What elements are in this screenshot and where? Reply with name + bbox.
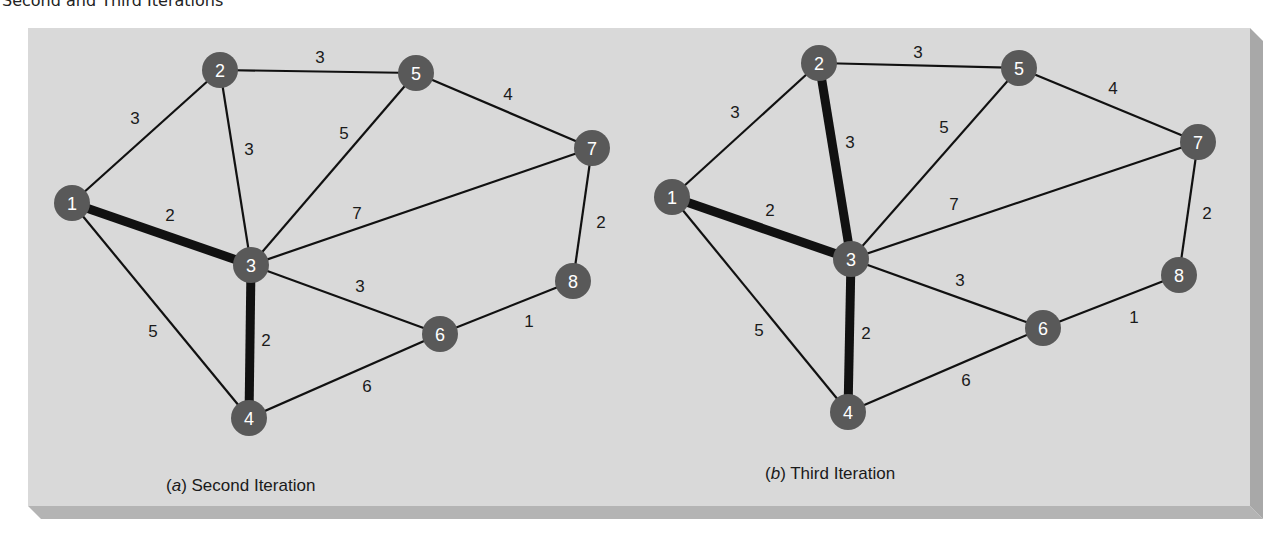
edge-weight-4-6: 6 [362,377,371,396]
node-6: 6 [1025,310,1061,346]
node-1: 1 [654,179,690,215]
edge-weight-3-6: 3 [355,277,364,296]
node-label: 6 [1038,319,1048,339]
node-label: 8 [1174,266,1184,286]
edge-weight-4-6: 6 [961,371,970,390]
node-label: 7 [1193,133,1203,153]
edge-weight-1-2: 3 [130,109,139,128]
node-8: 8 [1161,257,1197,293]
node-1: 1 [54,185,90,221]
node-label: 5 [411,64,421,84]
node-7: 7 [574,130,610,166]
node-label: 6 [435,325,445,345]
edge-weight-7-8: 2 [596,213,605,232]
node-2: 2 [801,45,837,81]
node-label: 5 [1014,59,1024,79]
edge-weight-2-3: 3 [845,133,854,152]
edge-weight-3-7: 7 [352,204,361,223]
node-4: 4 [830,394,866,430]
node-8: 8 [555,263,591,299]
node-label: 1 [67,194,77,214]
edge-weight-3-6: 3 [955,271,964,290]
panel-background [28,28,1263,519]
edge-weight-3-4: 2 [861,324,870,343]
node-4: 4 [231,400,267,436]
edge-weight-6-8: 1 [524,312,533,331]
node-label: 3 [246,256,256,276]
node-label: 2 [814,54,824,74]
edge-weight-1-4: 5 [148,322,157,341]
edge-weight-3-5: 5 [939,118,948,137]
edge-weight-3-5: 5 [339,124,348,143]
node-5: 5 [1001,50,1037,86]
node-6: 6 [422,316,458,352]
edge-weight-1-3: 2 [765,201,774,220]
node-label: 2 [215,61,225,81]
node-3: 3 [233,247,269,283]
edge-weight-2-5: 3 [913,43,922,62]
node-label: 4 [244,409,254,429]
edge-weight-5-7: 4 [503,85,512,104]
diagram-canvas: 325335732642112345678(a) Second Iteratio… [0,0,1283,544]
edge-weight-2-3: 3 [244,140,253,159]
node-5: 5 [398,55,434,91]
caption-a: (a) Second Iteration [166,476,315,495]
edge-weight-1-3: 2 [165,206,174,225]
node-7: 7 [1180,124,1216,160]
node-label: 7 [587,139,597,159]
edge-weight-3-7: 7 [949,195,958,214]
edge-weight-5-7: 4 [1108,79,1117,98]
edge-weight-6-8: 1 [1129,308,1138,327]
edge-3-4-selected [848,259,851,412]
edge-weight-3-4: 2 [261,331,270,350]
node-label: 3 [846,250,856,270]
node-3: 3 [833,241,869,277]
edge-weight-2-5: 3 [315,48,324,67]
caption-b: (b) Third Iteration [765,464,895,483]
panel-side-edge [1250,28,1263,519]
edge-weight-7-8: 2 [1202,204,1211,223]
edge-weight-1-4: 5 [754,321,763,340]
edge-3-4-selected [249,265,251,418]
node-label: 4 [843,403,853,423]
node-label: 1 [667,188,677,208]
panel-bottom-edge [28,506,1263,519]
panel-face [28,28,1250,506]
node-label: 8 [568,272,578,292]
edge-weight-1-2: 3 [730,103,739,122]
node-2: 2 [202,52,238,88]
